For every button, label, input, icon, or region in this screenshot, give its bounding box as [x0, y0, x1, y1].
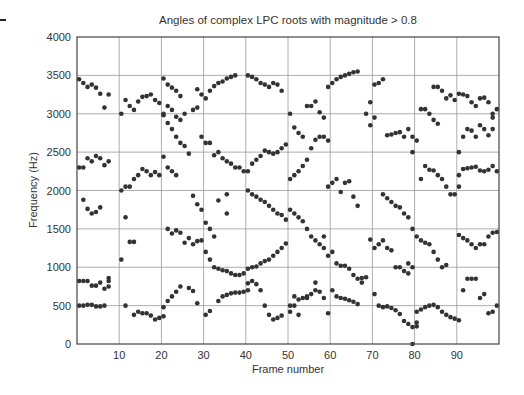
data-point — [178, 141, 183, 146]
data-point — [246, 281, 251, 286]
data-point — [258, 81, 263, 86]
data-point — [448, 315, 453, 320]
data-point — [165, 227, 170, 232]
data-point — [119, 111, 124, 116]
data-point — [246, 188, 251, 193]
data-point — [381, 192, 386, 197]
data-point — [381, 238, 386, 243]
data-point — [250, 75, 255, 80]
data-point — [199, 207, 204, 212]
data-point — [486, 100, 491, 105]
data-point — [279, 313, 284, 318]
data-point — [254, 77, 259, 82]
data-point — [364, 275, 369, 280]
data-point — [482, 292, 487, 297]
data-point — [402, 319, 407, 324]
data-point — [262, 148, 267, 153]
data-point — [296, 169, 301, 174]
data-point — [170, 127, 175, 132]
data-point — [161, 314, 166, 319]
data-point — [119, 257, 124, 262]
data-point — [414, 324, 419, 329]
data-point — [452, 192, 457, 197]
data-point — [275, 211, 280, 216]
data-point — [123, 98, 128, 103]
data-point — [225, 211, 230, 216]
y-tick-label: 4000 — [47, 31, 71, 43]
data-point — [144, 311, 149, 316]
data-point — [461, 167, 466, 172]
data-point — [89, 211, 94, 216]
data-point — [473, 276, 478, 281]
data-point — [292, 303, 297, 308]
data-point — [149, 92, 154, 97]
data-point — [102, 105, 107, 110]
data-point — [271, 207, 276, 212]
data-point — [322, 246, 327, 251]
data-point — [165, 299, 170, 304]
data-point — [427, 167, 432, 172]
data-point — [406, 261, 411, 266]
data-point — [360, 280, 365, 285]
data-point — [174, 115, 179, 120]
data-point — [132, 108, 137, 113]
data-point — [233, 290, 238, 295]
data-point — [419, 307, 424, 312]
data-point — [262, 200, 267, 205]
data-point — [478, 296, 483, 301]
data-point — [490, 230, 495, 235]
data-point — [385, 196, 390, 201]
data-point — [482, 169, 487, 174]
data-point — [81, 303, 86, 308]
data-point — [444, 313, 449, 318]
data-point — [89, 303, 94, 308]
data-point — [326, 184, 331, 189]
data-point — [106, 276, 111, 281]
data-point — [123, 215, 128, 220]
data-point — [389, 200, 394, 205]
data-point — [123, 303, 128, 308]
data-point — [465, 127, 470, 132]
data-point — [376, 303, 381, 308]
data-point — [199, 134, 204, 139]
data-point — [157, 316, 162, 321]
data-point — [436, 305, 441, 310]
x-tick-labels: 102030405060708090 — [113, 349, 463, 361]
data-point — [216, 299, 221, 304]
data-point — [419, 177, 424, 182]
data-point — [338, 75, 343, 80]
data-point — [338, 296, 343, 301]
data-point — [313, 99, 318, 104]
data-point — [288, 303, 293, 308]
data-point — [368, 100, 373, 105]
x-tick-label: 90 — [451, 349, 463, 361]
data-point — [246, 288, 251, 293]
data-point — [98, 280, 103, 285]
data-point — [140, 95, 145, 100]
data-point — [300, 134, 305, 139]
data-point — [469, 165, 474, 170]
data-point — [225, 293, 230, 298]
data-point — [343, 296, 348, 301]
data-point — [94, 283, 99, 288]
data-point — [203, 313, 208, 318]
data-point — [368, 123, 373, 128]
data-point — [305, 227, 310, 232]
data-point — [208, 141, 213, 146]
y-tick-label: 2000 — [47, 185, 71, 197]
data-point — [292, 294, 297, 299]
data-point — [326, 311, 331, 316]
data-point — [144, 169, 149, 174]
data-point — [355, 302, 360, 307]
data-point — [402, 211, 407, 216]
data-point — [208, 88, 213, 93]
data-point — [326, 138, 331, 143]
data-point — [457, 150, 462, 155]
data-point — [203, 96, 208, 101]
data-point — [355, 69, 360, 74]
data-point — [94, 154, 99, 159]
data-point — [195, 202, 200, 207]
data-point — [385, 304, 390, 309]
data-point — [486, 311, 491, 316]
data-point — [296, 297, 301, 302]
